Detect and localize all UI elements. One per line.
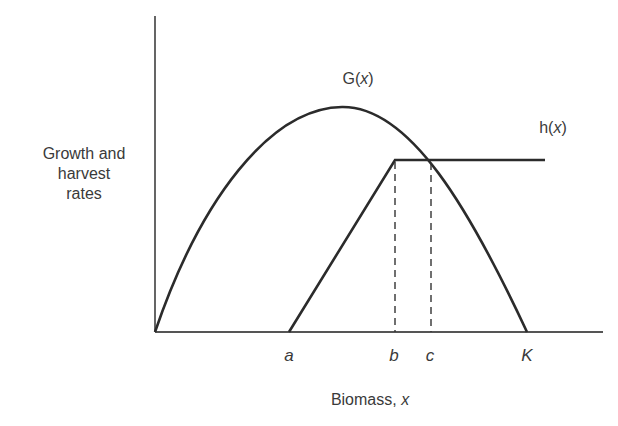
x-tick-c: c bbox=[426, 346, 435, 366]
harvest-curve-h bbox=[289, 160, 545, 332]
label-var: x bbox=[360, 70, 368, 87]
x-axis-label-text: Biomass, bbox=[331, 391, 401, 408]
y-axis-label-line: harvest bbox=[14, 164, 154, 184]
x-tick-b: b bbox=[389, 346, 398, 366]
y-axis-label: Growth and harvest rates bbox=[14, 144, 154, 204]
growth-curve-label: G(x) bbox=[342, 70, 373, 88]
x-axis-label: Biomass, x bbox=[300, 391, 440, 409]
label-prefix: h( bbox=[539, 119, 553, 136]
label-suffix: ) bbox=[368, 70, 373, 87]
y-axis-label-line: Growth and bbox=[14, 144, 154, 164]
y-axis-label-line: rates bbox=[14, 184, 154, 204]
x-tick-a: a bbox=[284, 346, 293, 366]
label-prefix: G( bbox=[342, 70, 360, 87]
growth-curve-g bbox=[155, 107, 527, 332]
harvest-curve-label: h(x) bbox=[539, 119, 567, 137]
x-tick-k: K bbox=[521, 346, 532, 366]
x-axis-label-var: x bbox=[401, 391, 409, 408]
label-suffix: ) bbox=[561, 119, 566, 136]
